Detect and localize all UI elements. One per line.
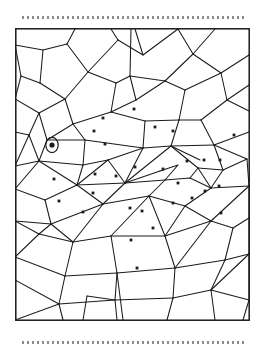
cell-marker-dot (58, 200, 61, 203)
cell-marker-dot (186, 160, 189, 163)
cell-marker-dot (104, 143, 107, 146)
mosaic-svg (15, 28, 250, 321)
cell-marker-dot (92, 192, 95, 195)
cell-marker-dot (93, 130, 96, 133)
cell-marker-dot (102, 117, 105, 120)
cell-marker-dot (191, 197, 194, 200)
cell-marker-dot (141, 210, 144, 213)
mosaic-puzzle (15, 28, 250, 321)
fish-eye-pupil (49, 142, 54, 147)
cell-marker-dot (94, 173, 97, 176)
cell-marker-dot (154, 126, 157, 129)
cell-marker-dot (172, 130, 175, 133)
cell-marker-dot (204, 190, 207, 193)
cell-marker-dot (177, 182, 180, 185)
dotted-line (22, 16, 244, 19)
cell-marker-dot (220, 212, 223, 215)
cell-marker-dot (162, 168, 165, 171)
mosaic-cell-edges (15, 29, 249, 320)
dotted-line (22, 341, 244, 344)
coloring-page (0, 0, 266, 354)
cell-marker-dot (172, 202, 175, 205)
dotted-separator-top (0, 14, 266, 20)
puzzle-frame (16, 29, 249, 320)
cell-marker-dot (136, 267, 139, 270)
cell-marker-dot (115, 175, 118, 178)
cell-marker-dot (233, 134, 236, 137)
cell-marker-dot (134, 166, 137, 169)
cell-marker-dot (219, 159, 222, 162)
cell-marker-dot (152, 227, 155, 230)
cell-marker-dot (218, 185, 221, 188)
cell-marker-dot (133, 108, 136, 111)
cell-marker-dot (130, 239, 133, 242)
cell-marker-dot (82, 211, 85, 214)
cell-marker-dot (53, 178, 56, 181)
dotted-separator-bottom (0, 339, 266, 345)
cell-marker-dot (129, 207, 132, 210)
cell-marker-dot (203, 159, 206, 162)
